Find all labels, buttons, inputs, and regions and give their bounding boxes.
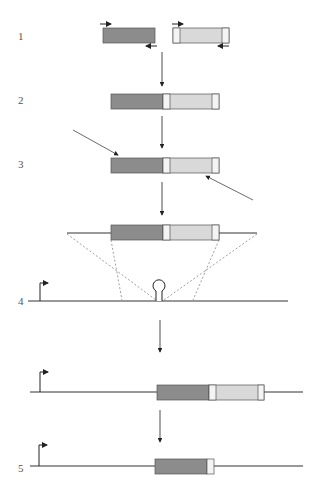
integrated-construct [30,372,303,400]
step-label-1: 1 [18,30,24,42]
targeting-construct [67,225,257,240]
step-label-5: 5 [18,462,24,474]
step-label-2: 2 [18,94,24,106]
hairpin-icon [153,280,165,301]
step-label-4: 4 [18,295,24,307]
step-2-fusion [111,94,219,109]
promoter-icon [40,372,48,392]
step-1-fragments [100,24,229,46]
promoter-icon [39,445,47,466]
step-label-3: 3 [18,158,24,170]
long-primer-reverse-icon [206,176,253,200]
promoter-icon [40,283,48,301]
step-4-chromosome [28,280,288,301]
step-5-final [30,445,303,474]
step-3-fusion-primers [73,130,253,200]
gene-targeting-diagram: 1 2 3 4 5 [0,0,321,493]
long-primer-forward-icon [73,130,118,155]
